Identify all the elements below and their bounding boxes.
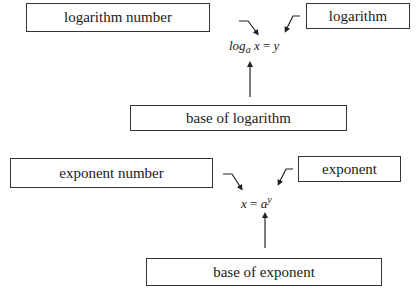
log-argument: x [254,38,260,53]
exp-lhs: x [241,196,247,211]
exponent-label: exponent [322,162,377,177]
logarithm-number-label: logarithm number [64,10,172,25]
exponent-number-label: exponent number [59,166,164,181]
base-of-exponent-box: base of exponent [146,258,382,286]
exp-power: y [267,194,271,205]
arrow-logarithm [286,16,300,30]
arrow-exp-number [223,174,241,188]
exponent-box: exponent [298,156,401,182]
arrow-log-number [239,21,257,33]
log-function: log [229,38,246,53]
log-result: y [274,38,280,53]
log-base-symbol: a [246,44,251,55]
exponent-number-box: exponent number [10,158,213,188]
logarithm-number-box: logarithm number [26,3,210,32]
arrows-layer [0,0,417,294]
logarithm-box: logarithm [306,3,410,29]
base-of-logarithm-box: base of logarithm [130,105,347,131]
logarithm-equation: loga x = y [229,39,279,55]
exp-equals: = [250,196,257,211]
base-of-exponent-label: base of exponent [213,265,315,280]
log-equals: = [263,38,270,53]
base-of-logarithm-label: base of logarithm [186,111,291,126]
exponent-equation: x = ay [241,195,272,210]
arrow-exponent [279,169,293,183]
logarithm-label: logarithm [329,9,387,24]
